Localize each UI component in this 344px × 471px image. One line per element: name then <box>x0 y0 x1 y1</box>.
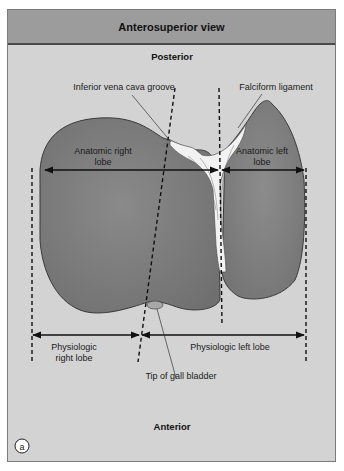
anatomic-left-label-2: lobe <box>253 157 270 167</box>
falciform-ligament-label: Falciform ligament <box>239 82 313 92</box>
physiologic-left-label: Physiologic left lobe <box>190 342 270 352</box>
anterior-label: Anterior <box>154 421 191 432</box>
gallbladder-leader-line <box>157 309 176 378</box>
anatomic-left-label-1: Anatomic left <box>236 146 289 156</box>
panel-marker-label: a <box>19 442 24 452</box>
physiologic-right-label-1: Physiologic <box>51 342 97 352</box>
ivc-groove-label: Inferior vena cava groove <box>73 82 175 92</box>
physiologic-right-label-2: right lobe <box>55 353 92 363</box>
gallbladder-tip-shape <box>147 301 163 309</box>
anatomic-right-label-2: lobe <box>94 157 111 167</box>
gallbladder-label: Tip of gall bladder <box>145 371 216 381</box>
anatomic-right-label-1: Anatomic right <box>74 146 132 156</box>
liver-diagram: Posterior Inferior vena cava groove Falc… <box>0 0 344 471</box>
left-lobe-shape <box>222 101 305 299</box>
posterior-label: Posterior <box>151 51 193 62</box>
